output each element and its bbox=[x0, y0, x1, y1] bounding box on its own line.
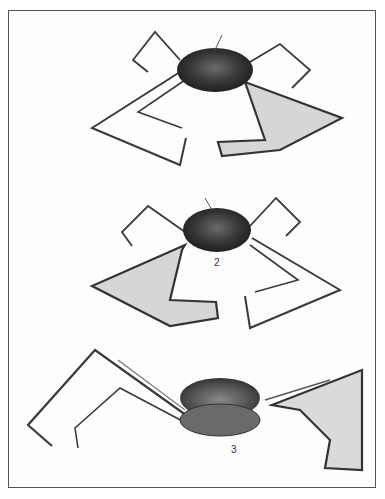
figure-2-label: 2 bbox=[214, 257, 220, 268]
specimen-illustrations: 2 3 bbox=[0, 0, 385, 499]
figure-1-harvestman bbox=[92, 32, 342, 165]
figure-3-harvestman bbox=[28, 350, 362, 470]
figure-3-label: 3 bbox=[231, 444, 237, 455]
